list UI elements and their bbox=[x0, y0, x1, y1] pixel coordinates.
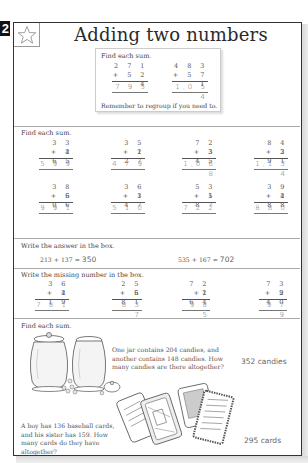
addend-bottom: + 4 8 8 bbox=[254, 192, 288, 201]
answer-field[interactable]: 9 8 5 bbox=[182, 300, 210, 310]
answer-field[interactable]: 8 8 0 bbox=[254, 203, 288, 213]
addend-top: 3 5 2 bbox=[111, 139, 145, 148]
addend-top: 3 8 5 bbox=[39, 183, 73, 192]
star-outline-icon bbox=[17, 25, 37, 45]
addend-top: 7 3 9 bbox=[259, 280, 287, 289]
addend-top: 4 8 3 bbox=[172, 62, 208, 71]
section-instruction: Find each sum. bbox=[21, 129, 71, 137]
answer-field[interactable]: 4 7 9 bbox=[111, 159, 145, 169]
addition-problem: 3 3 4 + 2 6 5 5 9 9 bbox=[39, 139, 73, 170]
addition-problem: 2 5 6 + 5 8 1 8 3 7 bbox=[112, 280, 142, 311]
example-instruction: Find each sum. bbox=[101, 52, 151, 60]
addend-bottom: + 1 2 7 bbox=[111, 148, 145, 157]
section-word-problems: Find each sum. One jar contains 204 c bbox=[14, 318, 300, 454]
addition-problem: 3 6 3 + 1 4 7 5 1 0 bbox=[111, 183, 145, 214]
addend-top: 7 2 1 bbox=[182, 280, 210, 289]
addend-top: 3 6 3 bbox=[111, 183, 145, 192]
addition-problem: 3 9 2 + 4 8 8 8 8 0 bbox=[254, 183, 288, 214]
regroup-note: Remember to regroup if you need to. bbox=[101, 102, 217, 109]
answer-field[interactable]: 5 1 0 bbox=[111, 203, 145, 213]
page-number: 2 bbox=[0, 21, 10, 36]
equation-expression: 535 + 167 = bbox=[178, 256, 218, 263]
worksheet-frame: Adding two numbers Find each sum. 2 7 1 … bbox=[13, 22, 302, 456]
answer-field[interactable]: 9 7 9 bbox=[259, 300, 287, 310]
answer-field[interactable]: 1,1 3 4 bbox=[254, 159, 288, 169]
answer-underline bbox=[254, 213, 288, 214]
answer-underline bbox=[111, 169, 145, 170]
baseball-cards-illustration bbox=[114, 379, 239, 454]
page-shadow-bottom bbox=[16, 456, 308, 463]
section-missing-number: Write the missing number in the box. 3 6… bbox=[14, 268, 300, 318]
addend-bottom: + 2 6 5 bbox=[39, 148, 73, 157]
addition-problem: 7 2 3 + 3 4 5 1,0 6 8 bbox=[182, 139, 216, 170]
answer-field[interactable]: 295 cards bbox=[244, 436, 281, 445]
addend-bottom: +2 6 4 bbox=[182, 289, 210, 298]
section-find-each-sum: Find each sum. 3 3 4 + 2 6 5 5 9 9 3 5 2… bbox=[14, 126, 300, 238]
answer-field[interactable]: 9 9 1 bbox=[39, 203, 73, 213]
addend-top: 5 3 5 bbox=[182, 183, 216, 192]
section-write-answer: Write the answer in the box. 213 + 137 =… bbox=[14, 238, 300, 268]
answer-underline bbox=[35, 310, 69, 311]
word-problem-text: One jar contains 204 candies, and anothe… bbox=[112, 346, 224, 372]
addend-bottom: + 2 4 0 bbox=[259, 289, 287, 298]
section-instruction: Write the missing number in the box. bbox=[21, 271, 144, 279]
answer-underline bbox=[39, 213, 73, 214]
answer-field[interactable]: 350 bbox=[82, 255, 96, 264]
page-shadow bbox=[302, 24, 308, 463]
answer-field[interactable]: 7 2 2 bbox=[182, 203, 216, 213]
addition-problem: 3 5 2 + 1 2 7 4 7 9 bbox=[111, 139, 145, 170]
addend-bottom: + 5 7 1 bbox=[172, 71, 208, 80]
addend-bottom: + 5 8 1 bbox=[112, 289, 142, 298]
answer-field[interactable]: 1,0 6 8 bbox=[182, 159, 216, 169]
equation: 213 + 137 = 350 bbox=[40, 255, 96, 264]
addend-bottom: + 6 0 6 bbox=[39, 192, 73, 201]
answer-field[interactable]: 5 9 9 bbox=[39, 159, 73, 169]
addend-bottom: + 2 9 1 bbox=[254, 148, 288, 157]
addition-problem: 5 3 5 + 1 8 7 7 2 2 bbox=[182, 183, 216, 214]
answer-field[interactable]: 352 candies bbox=[241, 357, 287, 366]
answer-field[interactable]: 1,0 5 4 bbox=[172, 82, 208, 92]
addend-bottom: + 3 4 5 bbox=[182, 148, 216, 157]
addend-top: 8 4 3 bbox=[254, 139, 288, 148]
section-instruction: Write the answer in the box. bbox=[21, 242, 115, 250]
addition-problem: 3 6 2 + 4 1 9 7 8 1 bbox=[35, 280, 69, 311]
addition-problem: 8 4 3 + 2 9 1 1,1 3 4 bbox=[254, 139, 288, 170]
addition-problem: 7 2 1 +2 6 4 9 8 5 bbox=[182, 280, 210, 311]
answer-underline bbox=[112, 92, 148, 93]
example-problem: 4 8 3 + 5 7 1 1,0 5 4 bbox=[172, 62, 208, 93]
addend-top: 3 9 2 bbox=[254, 183, 288, 192]
answer-underline bbox=[111, 213, 145, 214]
answer-field[interactable]: 7 8 1 bbox=[35, 300, 69, 310]
answer-field[interactable]: 8 3 7 bbox=[112, 300, 142, 310]
addend-top: 3 3 4 bbox=[39, 139, 73, 148]
word-problem-text: A boy has 136 baseball cards, and his si… bbox=[21, 422, 126, 456]
addend-top: 3 6 2 bbox=[35, 280, 69, 289]
addend-top: 7 2 3 bbox=[182, 139, 216, 148]
addend-top: 2 5 6 bbox=[112, 280, 142, 289]
equation-expression: 213 + 137 = bbox=[40, 256, 80, 263]
answer-underline bbox=[182, 213, 216, 214]
example-box: Find each sum. 2 7 1 + 5 2 4 7 9 5 4 8 3… bbox=[95, 48, 221, 112]
star-box bbox=[14, 23, 40, 47]
addend-top: 2 7 1 bbox=[112, 62, 148, 71]
addition-problem: 7 3 9 + 2 4 0 9 7 9 bbox=[259, 280, 287, 311]
example-problem: 2 7 1 + 5 2 4 7 9 5 bbox=[112, 62, 148, 93]
answer-field[interactable]: 702 bbox=[220, 255, 234, 264]
page-title: Adding two numbers bbox=[40, 24, 302, 45]
section-instruction: Find each sum. bbox=[21, 322, 71, 330]
addend-bottom: + 4 1 9 bbox=[35, 289, 69, 298]
addend-bottom: + 5 2 4 bbox=[112, 71, 148, 80]
addend-bottom: + 1 4 7 bbox=[111, 192, 145, 201]
answer-underline bbox=[39, 169, 73, 170]
addition-problem: 3 8 5 + 6 0 6 9 9 1 bbox=[39, 183, 73, 214]
candy-jars-illustration bbox=[22, 331, 122, 397]
answer-field[interactable]: 7 9 5 bbox=[112, 82, 148, 92]
addend-bottom: + 1 8 7 bbox=[182, 192, 216, 201]
equation: 535 + 167 = 702 bbox=[178, 255, 234, 264]
